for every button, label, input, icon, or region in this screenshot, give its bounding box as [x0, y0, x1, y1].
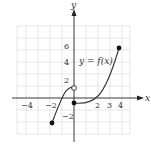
y-axis-label: y: [70, 0, 77, 10]
closed-point-start: [50, 121, 55, 126]
y-tick-label: 6: [64, 42, 69, 51]
y-tick-label: −2: [62, 112, 74, 121]
graph-canvas: x y −4 −2 2 3 4 6 4 2 −2 y = f(x): [0, 0, 151, 147]
x-tick-label: −4: [21, 101, 33, 110]
x-axis-label: x: [145, 93, 150, 103]
y-axis-arrow-icon: [72, 9, 77, 16]
y-tick-label: 2: [64, 76, 69, 85]
x-axis-arrow-icon: [137, 96, 144, 101]
x-tick-label: 3: [107, 101, 112, 110]
closed-point-end: [117, 46, 122, 51]
y-tick-label: 4: [64, 58, 69, 67]
open-point: [72, 86, 77, 91]
axes: [12, 12, 140, 142]
closed-point-origin: [72, 101, 77, 106]
x-tick-label: −2: [45, 101, 57, 110]
function-label: y = f(x): [78, 56, 113, 66]
x-tick-label: 2: [95, 101, 100, 110]
x-tick-label: 4: [118, 101, 123, 110]
